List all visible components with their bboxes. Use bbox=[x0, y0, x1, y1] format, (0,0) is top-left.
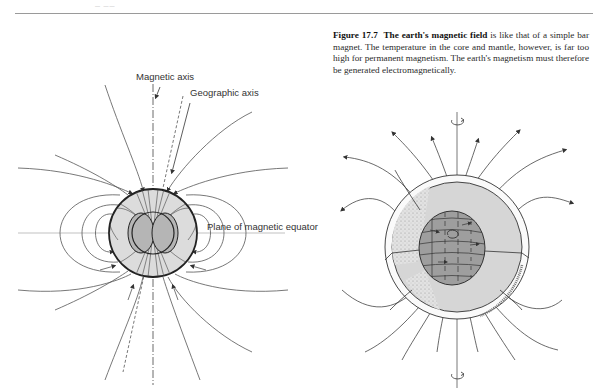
rotation-arrow-icon-bottom bbox=[452, 372, 464, 379]
rotation-arrow-icon-top bbox=[452, 118, 464, 125]
geographic-axis-label: Geographic axis bbox=[190, 87, 259, 98]
figure-canvas: Magnetic axis Geographic axis Plane of m… bbox=[0, 0, 593, 392]
magnetic-equator-label: Plane of magnetic equator bbox=[207, 221, 318, 232]
earth-cross-section bbox=[98, 189, 208, 277]
magnetic-axis-label: Magnetic axis bbox=[136, 71, 194, 82]
